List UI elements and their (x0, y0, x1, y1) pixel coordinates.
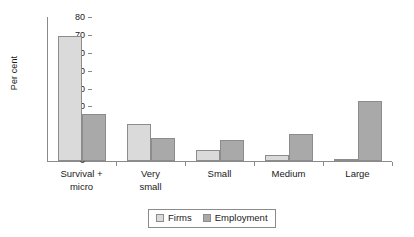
x-axis-category-labels: Survival +microVerysmallSmallMediumLarge (47, 167, 392, 201)
x-axis-label-small: Small (185, 167, 254, 180)
x-axis-label-line: Very (116, 167, 185, 180)
x-axis-tick-mark (392, 162, 393, 166)
x-axis-label-line: Medium (254, 167, 323, 180)
bar-employment-survival-micro (82, 114, 106, 161)
x-axis-label-line: small (116, 180, 185, 193)
x-axis-tick-mark (116, 162, 117, 166)
x-axis-label-line: Small (185, 167, 254, 180)
bar-employment-small (220, 140, 244, 161)
bars-layer (47, 17, 392, 162)
x-axis-label-large: Large (323, 167, 392, 180)
legend-label: Employment (215, 212, 268, 224)
legend-entry-firms[interactable]: Firms (156, 212, 192, 224)
firms-swatch (156, 214, 164, 222)
x-axis-label-very-small: Verysmall (116, 167, 185, 193)
x-axis-label-medium: Medium (254, 167, 323, 180)
x-axis-label-line: Survival + (47, 167, 116, 180)
x-axis-tick-mark (254, 162, 255, 166)
bar-firms-medium (265, 155, 289, 161)
bar-employment-medium (289, 134, 313, 161)
x-axis-tick-mark (323, 162, 324, 166)
employment-swatch (203, 214, 211, 222)
bar-firms-large (334, 159, 358, 161)
x-axis-label-line: micro (47, 180, 116, 193)
x-axis-label-line: Large (323, 167, 392, 180)
bar-firms-small (196, 150, 220, 161)
bar-firms-survival-micro (58, 36, 82, 161)
x-axis-label-survival-micro: Survival +micro (47, 167, 116, 193)
x-axis-tick-mark (185, 162, 186, 166)
bar-employment-large (358, 101, 382, 161)
bar-chart: Per cent 80706050403020100 Survival +mic… (0, 0, 414, 237)
legend-label: Firms (168, 212, 192, 224)
y-axis-ticks: 80706050403020100 (0, 0, 47, 162)
bar-employment-very-small (151, 138, 175, 161)
legend: FirmsEmployment (148, 209, 276, 228)
bar-firms-very-small (127, 124, 151, 161)
legend-entry-employment[interactable]: Employment (203, 212, 268, 224)
